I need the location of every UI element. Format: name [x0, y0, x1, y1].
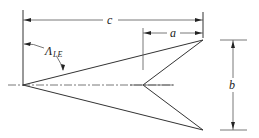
span-dimension: b: [220, 40, 247, 130]
sweep-angle-annotation: Λ LE: [24, 42, 65, 71]
span-arrow-bottom: [231, 122, 235, 129]
notch-arrow-right: [195, 31, 202, 35]
notch-label: a: [170, 26, 176, 40]
notch-arrow-left: [144, 31, 151, 35]
wing-diagram: c a b Λ LE: [0, 0, 259, 138]
chord-arrow-right: [195, 18, 202, 22]
chord-dimension: c: [23, 13, 203, 27]
sweep-arrow-lower: [61, 64, 65, 71]
span-arrow-top: [231, 41, 235, 48]
chord-arrow-left: [24, 18, 31, 22]
sweep-symbol: Λ: [44, 44, 53, 58]
sweep-subscript: LE: [52, 50, 62, 59]
span-label: b: [229, 78, 235, 92]
chord-label: c: [107, 13, 113, 27]
sweep-arrow-upper: [24, 42, 31, 46]
